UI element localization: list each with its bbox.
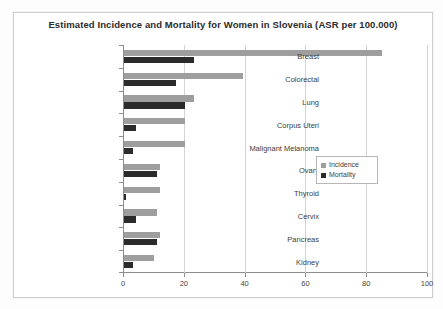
bar-incidence-pancreas [124, 232, 160, 238]
legend-label-incidence: Incidence [329, 160, 359, 170]
legend-swatch-icon-mortality [321, 173, 326, 178]
category-label-pancreas: Pancreas [219, 234, 319, 243]
bar-mortality-corpus-uteri [124, 125, 136, 131]
y-tick [119, 182, 123, 183]
x-tick [123, 273, 124, 277]
category-label-thyroid: Thyroid [219, 189, 319, 198]
legend-label-mortality: Mortality [329, 170, 355, 180]
bar-incidence-lung [124, 95, 194, 101]
bar-incidence-corpus-uteri [124, 118, 185, 124]
plot-area: 020406080100 BreastColorectalLungCorpus … [123, 45, 428, 273]
scanned-page-background: Estimated Incidence and Mortality for Wo… [0, 0, 443, 309]
x-tick [366, 273, 367, 277]
bar-mortality-malignant-melanoma [124, 148, 133, 154]
x-tick [305, 273, 306, 277]
bar-incidence-thyroid [124, 187, 160, 193]
y-tick [119, 205, 123, 206]
category-label-malignant-melanoma: Malignant Melanoma [219, 143, 319, 152]
legend-item-mortality: Mortality [321, 170, 373, 180]
y-tick [119, 91, 123, 92]
bar-mortality-thyroid [124, 194, 126, 200]
y-tick [119, 136, 123, 137]
y-tick [119, 113, 123, 114]
bar-incidence-ovary [124, 164, 160, 170]
legend-swatch-icon-incidence [321, 163, 326, 168]
x-tick-label: 80 [362, 279, 370, 288]
x-tick-label: 40 [240, 279, 248, 288]
x-tick-label: 100 [421, 279, 434, 288]
bar-mortality-breast [124, 57, 194, 63]
chart-frame: Estimated Incidence and Mortality for Wo… [13, 12, 433, 298]
category-label-ovary: Ovary [219, 166, 319, 175]
legend-item-incidence: Incidence [321, 160, 373, 170]
chart-title: Estimated Incidence and Mortality for Wo… [14, 19, 432, 30]
bar-incidence-malignant-melanoma [124, 141, 185, 147]
x-tick-label: 20 [180, 279, 188, 288]
x-tick [245, 273, 246, 277]
y-tick [119, 159, 123, 160]
bar-mortality-kidney [124, 262, 133, 268]
category-label-colorectal: Colorectal [219, 75, 319, 84]
y-tick [119, 272, 123, 273]
bar-mortality-lung [124, 102, 185, 108]
bar-mortality-ovary [124, 171, 157, 177]
bar-mortality-cervix [124, 216, 136, 222]
category-label-cervix: Cervix [219, 212, 319, 221]
bar-incidence-cervix [124, 209, 157, 215]
gridline [427, 45, 428, 273]
bar-incidence-kidney [124, 255, 154, 261]
bar-mortality-pancreas [124, 239, 157, 245]
x-tick [184, 273, 185, 277]
chart-legend: Incidence Mortality [316, 156, 378, 184]
y-tick [119, 227, 123, 228]
gridline [184, 45, 185, 273]
x-axis-line [123, 272, 428, 273]
category-label-kidney: Kidney [219, 257, 319, 266]
y-tick [119, 68, 123, 69]
y-tick [119, 45, 123, 46]
category-label-lung: Lung [219, 98, 319, 107]
x-tick [427, 273, 428, 277]
x-tick-label: 0 [121, 279, 125, 288]
x-tick-label: 60 [301, 279, 309, 288]
category-label-breast: Breast [219, 52, 319, 61]
bar-mortality-colorectal [124, 80, 176, 86]
category-label-corpus-uteri: Corpus Uteri [219, 120, 319, 129]
y-tick [119, 250, 123, 251]
